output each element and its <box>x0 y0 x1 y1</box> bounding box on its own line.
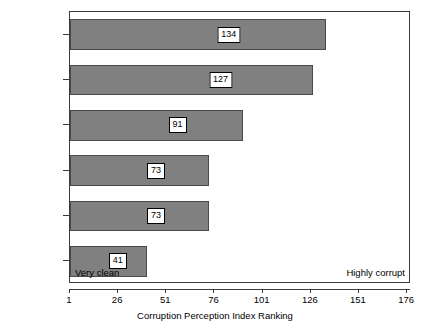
bar-value-label: 73 <box>147 163 165 179</box>
x-tick-label: 26 <box>112 295 123 305</box>
x-tick-label: 1 <box>66 295 71 305</box>
bar-value-label: 91 <box>168 117 186 133</box>
x-tick-label: 151 <box>350 295 366 305</box>
bar-guatemala <box>70 110 243 141</box>
x-tick <box>262 289 263 293</box>
bar-row <box>70 65 411 96</box>
bar-row <box>70 110 411 141</box>
bar-row <box>70 155 411 186</box>
x-tick <box>358 289 359 293</box>
bar-nicaragua <box>70 65 313 96</box>
x-tick-label: 51 <box>160 295 171 305</box>
x-tick <box>406 289 407 293</box>
x-tick-label: 101 <box>254 295 270 305</box>
annotation-highly-corrupt: Highly corrupt <box>346 268 405 278</box>
plot-area: 13412791737341 Very clean Highly corrupt <box>69 11 410 283</box>
x-tick <box>69 289 70 293</box>
bar-panama <box>70 155 209 186</box>
category-tick <box>63 34 69 35</box>
category-tick <box>63 260 69 261</box>
bar-row <box>70 19 411 50</box>
corruption-index-bar-chart: 13412791737341 Very clean Highly corrupt… <box>0 0 430 327</box>
bar-value-label: 73 <box>147 208 165 224</box>
category-tick <box>63 170 69 171</box>
x-tick <box>213 289 214 293</box>
bar-value-label: 127 <box>209 72 232 88</box>
bar-el-salvador <box>70 201 209 232</box>
bar-value-label: 134 <box>217 27 240 43</box>
x-tick-label: 176 <box>398 295 414 305</box>
bar-row <box>70 201 411 232</box>
category-tick <box>63 215 69 216</box>
category-tick <box>63 79 69 80</box>
x-tick <box>165 289 166 293</box>
bar-honduras <box>70 19 326 50</box>
x-tick-label: 76 <box>208 295 219 305</box>
annotation-very-clean: Very clean <box>75 268 119 278</box>
x-tick <box>117 289 118 293</box>
x-tick <box>310 289 311 293</box>
x-tick-label: 126 <box>302 295 318 305</box>
category-tick <box>63 124 69 125</box>
x-axis-title: Corruption Perception Index Ranking <box>0 311 430 321</box>
